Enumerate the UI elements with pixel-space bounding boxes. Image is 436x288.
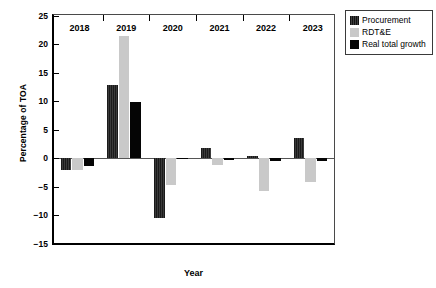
x-tick-mark [196, 15, 197, 21]
bar-2023-rdte [305, 158, 316, 182]
bar-2019-rdte [119, 36, 130, 158]
y-tick-mark [54, 158, 59, 159]
bar-2021-rdte [212, 158, 223, 165]
bar-chart-figure: Percentage of TOA 2520151050−5−10−15 201… [0, 0, 436, 288]
bar-2023-procurement [294, 138, 305, 159]
bar-2018-total [84, 158, 95, 165]
legend-item-procurement: Procurement [350, 15, 428, 25]
bar-2018-procurement [61, 158, 72, 169]
bar-2022-procurement [247, 156, 258, 158]
y-tick-mark [54, 130, 59, 131]
legend-label-procurement: Procurement [362, 15, 411, 25]
x-tick-mark [103, 15, 104, 21]
x-tick-mark [289, 15, 290, 21]
bar-2020-rdte [166, 158, 177, 185]
y-tick-label: −15 [2, 240, 48, 249]
y-tick-label: 15 [2, 69, 48, 78]
bar-2021-total [224, 158, 235, 160]
x-tick-mark [149, 15, 150, 21]
bar-2022-total [270, 158, 281, 161]
y-tick-mark [54, 187, 59, 188]
legend-swatch-rdte [350, 28, 359, 37]
y-tick-label: 20 [2, 40, 48, 49]
plot-area: 2520151050−5−10−15 201820192020202120222… [52, 14, 335, 245]
bar-2022-rdte [259, 158, 270, 191]
y-tick-mark [54, 101, 59, 102]
zero-baseline [54, 158, 334, 159]
x-tick-mark [243, 15, 244, 21]
chart-legend: Procurement RDT&E Real total growth [345, 10, 433, 55]
y-tick-mark [54, 215, 59, 216]
bar-2020-total [177, 158, 188, 159]
y-tick-label: 25 [2, 12, 48, 21]
legend-label-rdte: RDT&E [362, 27, 391, 37]
x-axis-title: Year [52, 268, 335, 278]
y-tick-label: −5 [2, 183, 48, 192]
legend-swatch-real-total-growth [350, 40, 359, 49]
bar-2021-procurement [201, 148, 212, 158]
y-tick-label: 5 [2, 126, 48, 135]
y-tick-label: −10 [2, 211, 48, 220]
bar-2018-rdte [72, 158, 83, 169]
y-tick-mark [54, 244, 59, 245]
y-tick-label: 0 [2, 154, 48, 163]
bar-2019-procurement [107, 85, 118, 158]
x-tick-label: 2023 [283, 23, 343, 33]
legend-item-rdte: RDT&E [350, 27, 428, 37]
legend-label-real-total-growth: Real total growth [362, 39, 426, 49]
y-tick-label: 10 [2, 97, 48, 106]
bar-2023-total [317, 158, 328, 160]
y-tick-mark [54, 16, 59, 17]
y-tick-mark [54, 73, 59, 74]
plot-inner: 2520151050−5−10−15 [54, 15, 334, 243]
legend-item-real-total-growth: Real total growth [350, 39, 428, 49]
y-tick-mark [54, 44, 59, 45]
bar-2019-total [130, 102, 141, 158]
bar-2020-procurement [154, 158, 165, 218]
legend-swatch-procurement [350, 16, 359, 25]
